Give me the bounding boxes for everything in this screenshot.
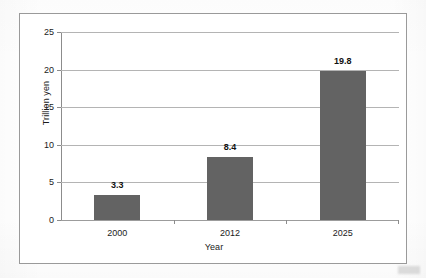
y-axis-tick-mark — [57, 70, 61, 71]
gridline — [61, 220, 399, 221]
bar-value-label: 19.8 — [334, 56, 352, 66]
bar[interactable] — [94, 195, 140, 220]
y-axis-tick-mark — [57, 145, 61, 146]
x-axis-tick-mark — [286, 220, 287, 224]
x-axis-tick-mark — [174, 220, 175, 224]
y-axis-tick-mark — [57, 220, 61, 221]
y-axis-tick-label: 25 — [44, 27, 54, 37]
y-axis-tick-mark — [57, 182, 61, 183]
y-axis-tick-mark — [57, 32, 61, 33]
bar-value-label: 3.3 — [111, 180, 124, 190]
y-axis-tick-label: 10 — [44, 140, 54, 150]
x-axis-category-label: 2012 — [220, 228, 240, 238]
y-axis-tick-label: 0 — [49, 215, 54, 225]
y-axis-tick-label: 20 — [44, 65, 54, 75]
plot-area: 0510152025 3.38.419.8 200020122025 — [61, 32, 399, 220]
y-axis-tick-mark — [57, 107, 61, 108]
y-axis-tick-label: 15 — [44, 102, 54, 112]
bar[interactable] — [320, 71, 366, 220]
y-axis-line — [61, 32, 62, 220]
x-axis-title: Year — [20, 242, 408, 252]
x-axis-category-label: 2000 — [107, 228, 127, 238]
bar-value-label: 8.4 — [224, 142, 237, 152]
bar-chart-frame: Trillion yen Year 0510152025 3.38.419.8 … — [19, 13, 407, 264]
scanned-page-background: Trillion yen Year 0510152025 3.38.419.8 … — [0, 0, 426, 278]
gridline — [61, 32, 399, 33]
scan-artifact-smudge — [398, 266, 420, 274]
x-axis-tick-mark — [398, 220, 399, 224]
y-axis-tick-label: 5 — [49, 177, 54, 187]
bar[interactable] — [207, 157, 253, 220]
x-axis-category-label: 2025 — [333, 228, 353, 238]
